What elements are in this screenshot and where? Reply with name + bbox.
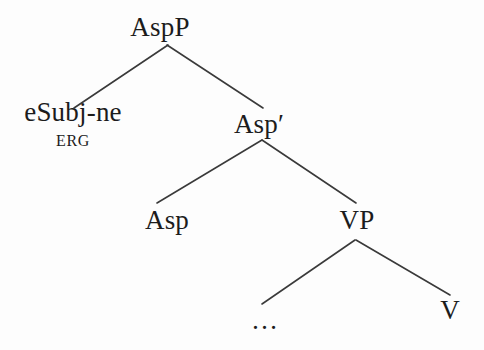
node-asp-label: Asp: [145, 207, 189, 234]
node-ellipsis: …: [251, 307, 279, 334]
node-asp: Asp: [145, 207, 189, 234]
node-v: V: [440, 297, 460, 324]
node-vp: VP: [340, 207, 375, 234]
branch-aspp-to-aspbar: [167, 45, 263, 108]
node-vp-label: VP: [340, 207, 375, 234]
tree-branch-layer: [0, 0, 484, 350]
syntax-tree-figure: AspP eSubj-ne ERG Asp′ Asp VP … V: [0, 0, 484, 350]
node-esubj-ne-case-gloss: ERG: [24, 133, 122, 149]
node-v-label: V: [440, 297, 460, 324]
branch-vp-to-v: [356, 240, 450, 295]
branch-aspbar-to-vp: [262, 140, 356, 203]
node-asp-bar: Asp′: [234, 111, 284, 138]
node-ellipsis-label: …: [251, 307, 279, 334]
node-asp-bar-label: Asp′: [234, 111, 284, 138]
node-aspp-label: AspP: [130, 14, 189, 41]
node-esubj-ne-label: eSubj-ne: [24, 99, 122, 126]
node-esubj-ne: eSubj-ne ERG: [24, 99, 122, 149]
node-aspp: AspP: [130, 14, 189, 41]
branch-vp-to-ellipsis: [262, 240, 355, 304]
branch-aspbar-to-asp: [157, 140, 262, 203]
